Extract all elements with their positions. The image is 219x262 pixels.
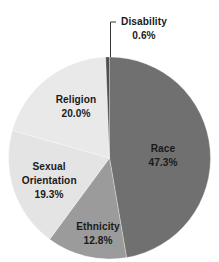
label-disability-pct: 0.6% [119,28,168,42]
label-sexual-orientation: Sexual Orientation 19.3% [22,159,77,201]
label-sexual-orientation-line1: Sexual [22,159,77,173]
label-race-name: Race [141,141,185,155]
label-ethnicity-name: Ethnicity [72,219,125,233]
label-race-pct: 47.3% [141,155,185,169]
label-sexual-orientation-line2: Orientation [22,173,77,187]
label-ethnicity-pct: 12.8% [72,233,125,247]
label-ethnicity: Ethnicity 12.8% [72,219,125,247]
label-religion-pct: 20.0% [51,106,100,120]
label-disability: Disability 0.6% [119,14,168,42]
label-religion: Religion 20.0% [51,92,100,120]
disability-leader-line [111,22,117,57]
label-sexual-orientation-pct: 19.3% [22,187,77,201]
label-religion-name: Religion [51,92,100,106]
label-disability-name: Disability [119,14,168,28]
label-race: Race 47.3% [141,141,185,169]
